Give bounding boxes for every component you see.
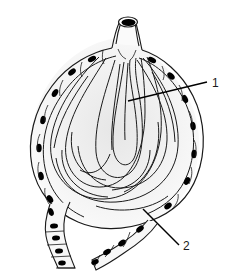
figure-container: 1 2 <box>0 0 235 278</box>
label-2-text: 2 <box>183 239 190 253</box>
excretory-duct-lumen <box>122 19 136 26</box>
gland-diagram-svg: 1 2 <box>0 0 235 278</box>
label-1-text: 1 <box>212 76 219 90</box>
